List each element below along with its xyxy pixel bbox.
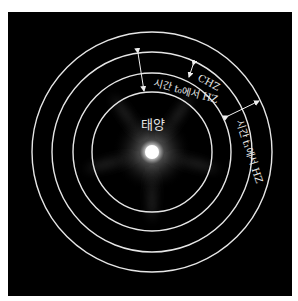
hz-t0-arrow — [138, 53, 144, 91]
habitable-zone-diagram: 태양 CHZ 시간 t₀에서 HZ 시간 t₁에서 HZ — [0, 0, 298, 301]
sun-icon — [145, 145, 159, 159]
chz-arrow — [189, 65, 193, 77]
hz-t1-arrow — [228, 101, 259, 116]
sun-label: 태양 — [141, 117, 165, 132]
